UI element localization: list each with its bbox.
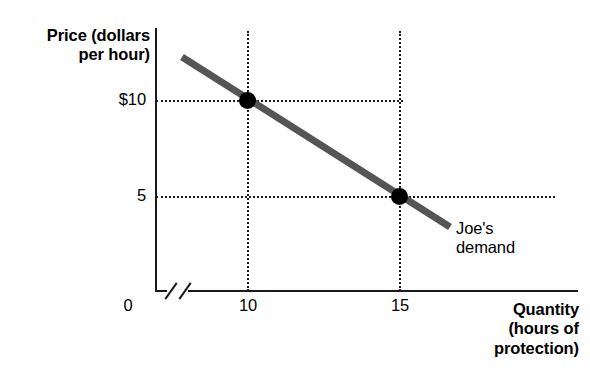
x-axis-title: Quantity (hours of protection) xyxy=(418,300,579,358)
joes-demand-label: Joe's demand xyxy=(456,219,515,258)
demand-line-segment xyxy=(182,57,450,227)
x-tick-label-10: 10 xyxy=(228,296,268,315)
gridline-quantity-15 xyxy=(399,31,401,291)
gridline-quantity-10 xyxy=(247,31,249,291)
data-point-q10-p10 xyxy=(239,92,256,109)
gridline-price-10 xyxy=(156,100,403,102)
gridline-price-5 xyxy=(156,196,555,198)
x-tick-label-0: 0 xyxy=(108,296,148,315)
y-tick-label-10: $10 xyxy=(66,90,146,109)
y-axis-line xyxy=(155,28,157,292)
y-tick-label-5: 5 xyxy=(66,186,146,205)
demand-curve-chart: Price (dollars per hour) Quantity (hours… xyxy=(0,0,590,383)
data-point-q15-p5 xyxy=(391,188,408,205)
x-tick-label-15: 15 xyxy=(380,296,420,315)
x-axis-line-stub xyxy=(155,290,167,292)
y-axis-title: Price (dollars per hour) xyxy=(6,26,150,65)
